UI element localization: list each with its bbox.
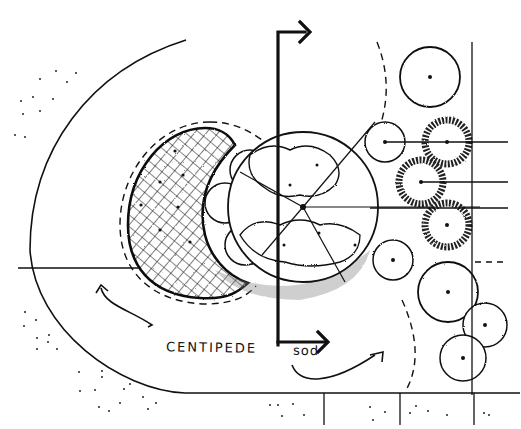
lawn-label-sod: sod bbox=[293, 343, 319, 358]
paving-band bbox=[324, 393, 474, 425]
lawn-label-centipede: CENTIPEDE bbox=[166, 339, 257, 356]
dashed-canopy-arc-bottom bbox=[402, 300, 415, 392]
flow-arrows bbox=[96, 285, 383, 379]
landscape-plan bbox=[0, 0, 521, 429]
paving-stipple bbox=[269, 403, 490, 421]
right-shrub-column bbox=[365, 47, 507, 381]
